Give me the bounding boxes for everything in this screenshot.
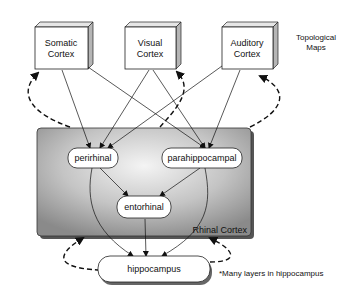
hippocampus-footnote: *Many layers in hippocampus <box>219 269 324 278</box>
topological-maps-line-2: Maps <box>306 43 326 52</box>
diagram-canvas: Rhinal Cortex Somatic Cortex Visual Cort… <box>0 0 360 301</box>
svg-text:perirhinal: perirhinal <box>74 153 111 163</box>
rhinal-cortex-label: Rhinal Cortex <box>192 225 247 235</box>
svg-text:hippocampus: hippocampus <box>127 264 181 274</box>
visual-line-2: Cortex <box>137 49 164 59</box>
auditory-cortex-box: Auditory Cortex <box>222 22 278 69</box>
somatic-line-2: Cortex <box>48 49 75 59</box>
svg-text:parahippocampal: parahippocampal <box>167 153 236 163</box>
topological-maps-line-1: Topological <box>296 33 336 42</box>
auditory-line-1: Auditory <box>230 38 264 48</box>
auditory-line-2: Cortex <box>234 49 261 59</box>
rhinal-cortex-region: Rhinal Cortex <box>37 128 254 239</box>
somatic-line-1: Somatic <box>45 38 78 48</box>
node-entorhinal: entorhinal <box>117 196 171 218</box>
node-parahippocampal: parahippocampal <box>162 148 242 168</box>
svg-text:entorhinal: entorhinal <box>124 202 164 212</box>
somatic-cortex-box: Somatic Cortex <box>35 22 93 69</box>
visual-line-1: Visual <box>138 38 162 48</box>
node-perirhinal: perirhinal <box>68 148 118 168</box>
visual-cortex-box: Visual Cortex <box>125 22 181 69</box>
node-hippocampus: hippocampus <box>98 256 212 285</box>
